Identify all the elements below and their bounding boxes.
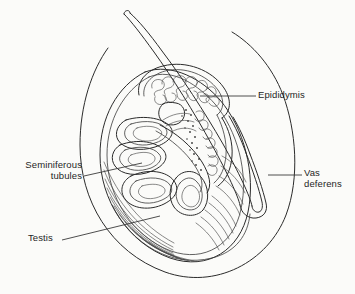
label-vas-deferens: Vas deferens bbox=[304, 167, 352, 189]
label-testis: Testis bbox=[28, 232, 53, 243]
tunica-hatching bbox=[104, 156, 250, 261]
label-epididymis: Epididymis bbox=[258, 89, 305, 100]
seminiferous-tubules bbox=[112, 113, 209, 215]
anatomy-drawing bbox=[0, 0, 355, 294]
leader-lines bbox=[62, 96, 302, 240]
label-seminiferous-tubules: Seminiferous tubules bbox=[8, 159, 82, 181]
anatomy-figure: Epididymis Seminiferous tubules Vas defe… bbox=[0, 0, 355, 294]
testis-body bbox=[100, 69, 250, 262]
epididymis bbox=[138, 64, 232, 186]
